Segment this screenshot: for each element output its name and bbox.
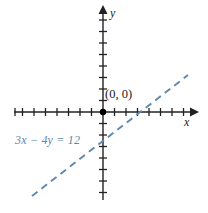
x-axis-label: x xyxy=(184,116,189,128)
coordinate-plane-svg xyxy=(0,0,208,213)
x-axis-arrowhead xyxy=(190,108,199,117)
line-equation-label: 3x − 4y = 12 xyxy=(15,134,80,146)
y-axis-arrowhead xyxy=(99,5,108,14)
y-axis-label: y xyxy=(110,7,115,19)
origin-point-marker xyxy=(100,109,106,115)
graph-figure: y x (0, 0) 3x − 4y = 12 xyxy=(0,0,208,213)
origin-point-label: (0, 0) xyxy=(105,88,132,101)
